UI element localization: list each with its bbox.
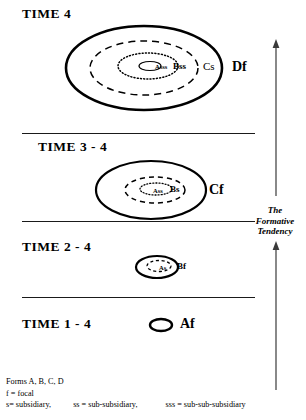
time-label-time1-4: TIME 1 - 4	[22, 316, 91, 332]
formative-tendency-diagram: TIME 4 TIME 3 - 4 TIME 2 - 4 TIME 1 - 4 …	[0, 0, 306, 420]
formative-tendency-line-3: Tendency	[244, 226, 306, 237]
form-label-Df: Df	[232, 59, 247, 75]
legend-line-focal: f = focal	[6, 388, 246, 400]
time2_4-outer-ellipse-Bf	[136, 256, 178, 278]
formative-tendency-arrow-lower	[273, 241, 280, 390]
formative-tendency-arrow-upper	[273, 39, 280, 196]
formative-tendency-line-2: Formative	[244, 216, 306, 227]
time-label-time2-4: TIME 2 - 4	[22, 239, 91, 255]
legend-line-forms: Forms A, B, C, D	[6, 376, 246, 388]
formative-tendency-caption: The Formative Tendency	[244, 205, 306, 237]
formative-tendency-line-1: The	[244, 205, 306, 216]
form-label-Asss: Asss	[155, 63, 167, 70]
legend-sub-sub-subsidiary: sss = sub-sub-subsidiary	[166, 399, 246, 411]
time3_4-outer-ellipse-Cf	[96, 161, 206, 219]
divider-rule-1	[22, 133, 255, 134]
form-label-Ass: Ass	[153, 187, 163, 194]
legend-sub-subsidiary: ss = sub-subsidiary,	[73, 399, 137, 411]
divider-rule-3	[22, 297, 255, 298]
form-label-Bf: Bf	[177, 261, 186, 271]
time4-third-ellipse-Bss	[118, 53, 178, 79]
legend-subsidiary: s= subsidiary,	[6, 399, 51, 411]
form-label-As: As	[159, 264, 166, 271]
divider-rule-2	[22, 221, 255, 222]
time1_4-ellipse-Af	[150, 319, 172, 331]
legend-block: Forms A, B, C, D f = focal s= subsidiary…	[6, 376, 246, 411]
form-label-Cs: Cs	[203, 60, 215, 72]
time-label-time3-4: TIME 3 - 4	[38, 139, 107, 155]
form-label-Af: Af	[180, 316, 195, 332]
time-label-time4: TIME 4	[22, 6, 71, 22]
form-label-Bs: Bs	[170, 184, 180, 194]
form-label-Bss: Bss	[173, 61, 186, 71]
form-label-Cf: Cf	[209, 182, 224, 198]
legend-line-subsidiary: s= subsidiary, ss = sub-subsidiary, sss …	[6, 399, 246, 411]
